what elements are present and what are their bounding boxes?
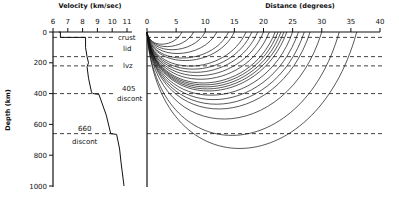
svg-text:9: 9: [95, 18, 99, 26]
label-lid: lid: [123, 45, 131, 53]
label-660-discont: discont: [72, 138, 98, 146]
svg-text:35: 35: [346, 18, 355, 26]
svg-text:1000: 1000: [29, 183, 47, 191]
svg-text:20: 20: [259, 18, 268, 26]
depth-ticks: 02004006008001000: [29, 29, 53, 191]
label-660: 660: [78, 125, 91, 133]
label-405-discont: discont: [117, 95, 143, 103]
velocity-title: Velocity (km/sec): [58, 2, 121, 10]
ray-paths: [147, 32, 357, 148]
discontinuity-lines-left: [53, 37, 116, 133]
velocity-ticks: 67891011: [51, 18, 132, 32]
figure: Velocity (km/sec) 67891011 0200400600800…: [0, 0, 399, 199]
svg-text:25: 25: [288, 18, 297, 26]
depth-axis-label: Depth (km): [4, 89, 12, 131]
svg-text:8: 8: [80, 18, 84, 26]
velocity-profile: [59, 32, 124, 186]
label-lvz: lvz: [123, 62, 133, 70]
svg-text:5: 5: [174, 18, 178, 26]
svg-text:11: 11: [123, 18, 132, 26]
distance-panel: Distance (degrees) 0510152025303540: [145, 2, 385, 187]
discontinuity-lines-right: [147, 37, 385, 133]
svg-text:30: 30: [317, 18, 326, 26]
svg-text:40: 40: [376, 18, 385, 26]
svg-text:10: 10: [201, 18, 210, 26]
svg-text:400: 400: [34, 90, 47, 98]
velocity-panel: Velocity (km/sec) 67891011 0200400600800…: [4, 2, 143, 191]
svg-text:0: 0: [145, 18, 149, 26]
label-405: 405: [122, 85, 135, 93]
svg-text:10: 10: [108, 18, 117, 26]
svg-text:0: 0: [43, 29, 47, 37]
distance-title: Distance (degrees): [265, 2, 335, 10]
svg-text:15: 15: [230, 18, 239, 26]
svg-text:600: 600: [34, 121, 47, 129]
distance-ticks: 0510152025303540: [145, 18, 385, 32]
label-crust: crust: [118, 34, 136, 42]
svg-text:6: 6: [51, 18, 56, 26]
svg-text:7: 7: [66, 18, 70, 26]
svg-text:200: 200: [34, 59, 47, 67]
svg-text:800: 800: [34, 152, 47, 160]
